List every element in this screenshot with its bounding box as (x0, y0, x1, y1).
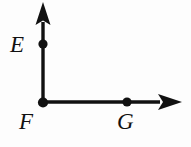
up-arrowhead-icon (36, 2, 51, 25)
point-label-G: G (117, 110, 134, 133)
point-G-dot (122, 97, 131, 106)
point-F-dot (38, 97, 48, 107)
right-arrowhead-icon (158, 94, 182, 110)
point-E-dot (38, 39, 47, 48)
geometry-figure: E F G (0, 0, 191, 147)
point-label-F: F (19, 110, 33, 133)
point-label-E: E (10, 33, 24, 56)
